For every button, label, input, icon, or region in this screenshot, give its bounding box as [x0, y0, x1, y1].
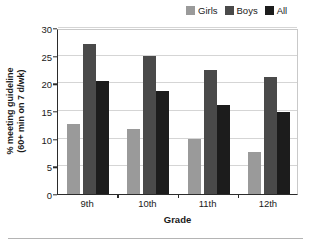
x-tick-mark: [117, 194, 118, 198]
bar-boys-10th[interactable]: [143, 56, 156, 194]
legend-label: Girls: [198, 6, 218, 16]
x-tick-label-12th: 12th: [259, 198, 278, 209]
bar-all-9th[interactable]: [96, 81, 109, 194]
x-axis-ticks: 9th10th11th12th: [57, 198, 298, 212]
legend-swatch-icon-boys: [225, 6, 234, 15]
y-tick-label: 5: [47, 162, 52, 173]
y-axis-ticks: 051015202530: [30, 29, 57, 195]
y-tick-label: 20: [41, 79, 52, 90]
x-tick-mark: [178, 194, 179, 198]
y-tick-label: 10: [41, 134, 52, 145]
bar-girls-9th[interactable]: [67, 124, 80, 194]
y-tick-label: 25: [41, 51, 52, 62]
bar-girls-12th[interactable]: [248, 152, 261, 194]
bar-group-11th: [179, 30, 239, 194]
bar-boys-9th[interactable]: [83, 44, 96, 195]
bar-group-9th: [58, 30, 118, 194]
bar-all-10th[interactable]: [156, 91, 169, 194]
legend-entry-boys[interactable]: Boys: [225, 6, 258, 16]
bar-girls-11th[interactable]: [188, 139, 201, 194]
bar-girls-10th[interactable]: [127, 129, 140, 194]
bar-group-10th: [118, 30, 178, 194]
y-tick-label: 15: [41, 107, 52, 118]
y-axis-title: % meeting guideline (60+ min on 7 d/wk): [2, 28, 28, 194]
legend-swatch-icon-all: [265, 6, 274, 15]
bar-chart-figure: GirlsBoysAll % meeting guideline (60+ mi…: [0, 0, 311, 250]
legend-entry-all[interactable]: All: [265, 6, 288, 16]
legend-label: All: [277, 6, 288, 16]
bar-all-11th[interactable]: [217, 105, 230, 194]
legend-swatch-icon-girls: [186, 6, 195, 15]
bar-group-12th: [239, 30, 299, 194]
y-tick-label: 0: [47, 190, 52, 201]
legend-entry-girls[interactable]: Girls: [186, 6, 218, 16]
y-axis-title-line1: % meeting guideline: [4, 67, 14, 154]
x-tick-mark: [238, 194, 239, 198]
x-axis-title: Grade: [57, 214, 298, 225]
x-tick-label-9th: 9th: [81, 198, 94, 209]
x-tick-label-10th: 10th: [138, 198, 157, 209]
y-axis-title-line2: (60+ min on 7 d/wk): [15, 67, 26, 154]
gridline: [58, 27, 297, 28]
y-tick-label: 30: [41, 24, 52, 35]
x-tick-label-11th: 11th: [199, 198, 217, 209]
bar-boys-12th[interactable]: [264, 77, 277, 194]
bottom-divider: [8, 238, 303, 239]
bar-all-12th[interactable]: [277, 112, 290, 194]
bar-series-container: [58, 30, 297, 194]
plot-area: [57, 29, 298, 195]
chart-legend: GirlsBoysAll: [186, 6, 287, 16]
legend-label: Boys: [237, 6, 258, 16]
bar-boys-11th[interactable]: [204, 70, 217, 194]
